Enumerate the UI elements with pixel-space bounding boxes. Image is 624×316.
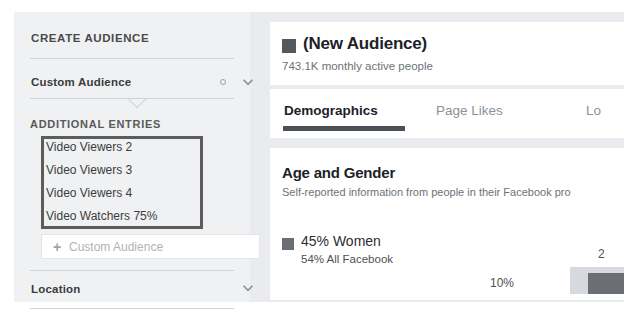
- section-description: Self-reported information from people in…: [282, 186, 571, 198]
- custom-audience-input-placeholder: Custom Audience: [69, 240, 163, 255]
- section-heading: Age and Gender: [282, 164, 395, 181]
- tab-page-likes[interactable]: Page Likes: [436, 103, 503, 118]
- dropdown-caret-icon: [126, 99, 148, 110]
- list-item[interactable]: Video Watchers 75%: [46, 209, 157, 223]
- additional-entries-label: ADDITIONAL ENTRIES: [30, 118, 161, 130]
- color-swatch-icon: [282, 39, 296, 53]
- sidebar-row-location-label[interactable]: Location: [31, 283, 81, 295]
- axis-tick-label: 10%: [490, 276, 514, 290]
- sidebar-section-title: CREATE AUDIENCE: [31, 32, 149, 44]
- divider: [30, 58, 234, 59]
- list-item[interactable]: Video Viewers 3: [46, 163, 132, 177]
- page-title: (New Audience): [303, 34, 427, 54]
- sidebar-row-custom-audience-label[interactable]: Custom Audience: [31, 76, 131, 88]
- plus-icon: +: [53, 239, 61, 255]
- create-audience-sidebar: CREATE AUDIENCE Custom Audience ADDITION…: [14, 12, 250, 302]
- chevron-down-icon[interactable]: [242, 282, 254, 294]
- age-and-gender-card: Age and Gender Self-reported information…: [270, 148, 624, 300]
- legend-primary-label: 45% Women: [301, 233, 381, 249]
- tabs-card: Demographics Page Likes Lo: [270, 89, 624, 138]
- list-item[interactable]: Video Viewers 2: [46, 140, 132, 154]
- divider: [30, 270, 234, 271]
- gear-icon[interactable]: [220, 79, 226, 85]
- divider: [30, 308, 234, 309]
- audience-header-card: (New Audience) 743.1K monthly active peo…: [270, 22, 624, 85]
- chevron-down-icon[interactable]: [242, 76, 254, 88]
- color-swatch-icon: [282, 238, 294, 250]
- list-item[interactable]: Video Viewers 4: [46, 186, 132, 200]
- tab-demographics[interactable]: Demographics: [284, 103, 378, 118]
- bar-value-label: 2: [598, 247, 605, 261]
- tab-location[interactable]: Lo: [586, 103, 601, 118]
- screenshot-root: CREATE AUDIENCE Custom Audience ADDITION…: [0, 0, 624, 316]
- active-tab-indicator: [283, 126, 405, 131]
- custom-audience-input[interactable]: + Custom Audience: [41, 234, 260, 259]
- audience-reach-text: 743.1K monthly active people: [282, 60, 433, 72]
- legend-secondary-label: 54% All Facebook: [301, 253, 393, 265]
- bar-foreground: [588, 273, 624, 294]
